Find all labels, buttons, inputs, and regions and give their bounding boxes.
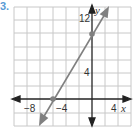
y-axis-label: y bbox=[94, 4, 100, 16]
y-axis-down-arrow-icon bbox=[89, 118, 95, 126]
x-axis-left-arrow-icon bbox=[12, 96, 20, 102]
x-tick-label: 4 bbox=[111, 103, 117, 114]
x-tick-label: −8 bbox=[24, 103, 36, 114]
y-tick-label: 4 bbox=[84, 67, 90, 78]
x-axis-label: x bbox=[120, 102, 126, 114]
plotted-line bbox=[40, 8, 108, 124]
y-tick-label: 12 bbox=[79, 13, 91, 24]
line-arrow-down-icon bbox=[40, 114, 47, 124]
coordinate-graph: −8 −4 4 x 12 4 y bbox=[0, 0, 137, 134]
x-tick-label: −4 bbox=[56, 103, 68, 114]
x-intercept-point bbox=[51, 97, 55, 101]
y-intercept-point bbox=[90, 32, 94, 36]
